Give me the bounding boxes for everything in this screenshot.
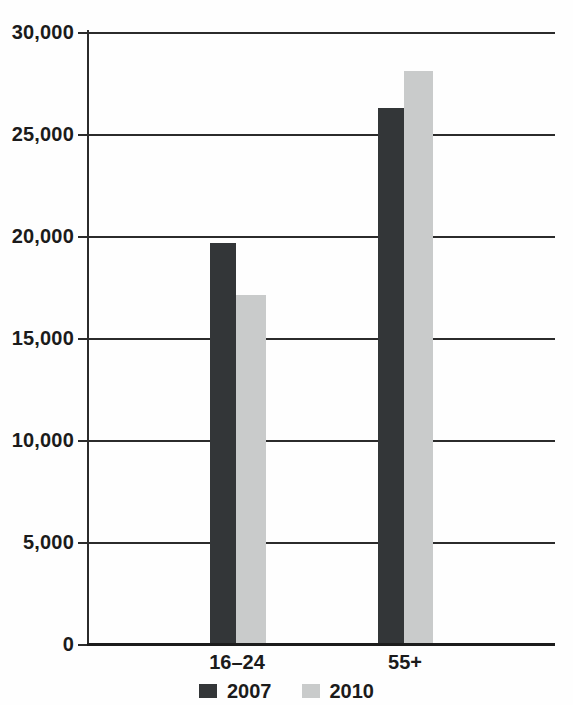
y-tick-mark (78, 644, 87, 646)
y-tick-mark (78, 134, 87, 136)
y-axis-labels: 30,000 25,000 20,000 15,000 10,000 5,000… (0, 0, 74, 705)
y-tick-label-30000: 30,000 (2, 21, 74, 44)
legend-label-2007: 2007 (227, 681, 272, 701)
x-category-label-55plus: 55+ (388, 651, 422, 674)
y-tick-label-15000: 15,000 (2, 327, 74, 350)
legend-swatch-icon-2007 (199, 684, 217, 698)
y-tick-label-25000: 25,000 (2, 123, 74, 146)
bar-chart: 30,000 25,000 20,000 15,000 10,000 5,000… (0, 0, 573, 705)
y-tick-mark (78, 542, 87, 544)
legend-swatch-icon-2010 (302, 684, 320, 698)
chart-legend: 2007 2010 (0, 681, 573, 701)
legend-item-2010: 2010 (302, 681, 375, 701)
bar-2010-55plus (404, 71, 433, 644)
legend-label-2010: 2010 (330, 681, 375, 701)
bar-2010-16-24 (236, 295, 266, 644)
y-tick-label-20000: 20,000 (2, 225, 74, 248)
x-axis-line (87, 643, 555, 646)
y-axis-line (87, 30, 89, 646)
y-tick-mark (78, 338, 87, 340)
x-category-label-16-24: 16–24 (209, 651, 265, 674)
y-tick-mark (78, 236, 87, 238)
bar-2007-55plus (378, 108, 404, 645)
y-tick-label-5000: 5,000 (2, 531, 74, 554)
legend-item-2007: 2007 (199, 681, 272, 701)
y-tick-label-0: 0 (2, 633, 74, 656)
bars-layer (89, 32, 555, 644)
y-tick-label-10000: 10,000 (2, 429, 74, 452)
y-tick-mark (78, 440, 87, 442)
bar-2007-16-24 (210, 243, 236, 644)
y-tick-mark (78, 32, 87, 34)
